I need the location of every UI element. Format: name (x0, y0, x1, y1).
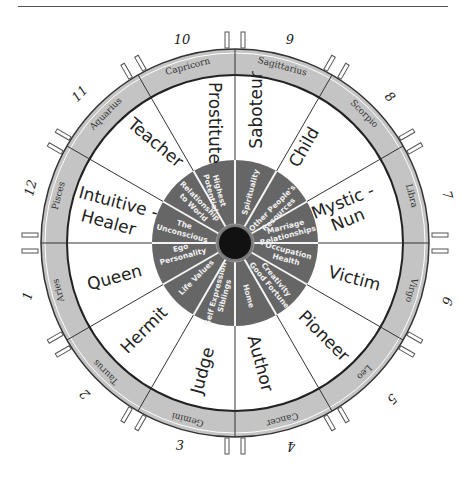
house-number-11: 11 (68, 82, 90, 104)
archetype-wheel: Capricorn Sagittarius Scorpio Libra Virg… (0, 0, 470, 483)
house-number-9: 9 (286, 32, 294, 47)
house-number-5: 5 (384, 391, 400, 407)
house-number-7: 7 (439, 189, 456, 202)
house-number-3: 3 (176, 438, 184, 453)
house-number-1: 1 (19, 290, 36, 302)
archetype-prostitute: Prostitute (205, 82, 225, 164)
archetype-saboteur: Saboteur (246, 71, 266, 148)
house-number-6: 6 (439, 295, 456, 307)
house-number-10: 10 (174, 32, 191, 47)
house-number-12: 12 (21, 178, 40, 198)
house-number-2: 2 (76, 386, 93, 403)
house-number-8: 8 (382, 89, 398, 105)
center-hub (219, 227, 251, 259)
house-number-4: 4 (287, 439, 296, 454)
